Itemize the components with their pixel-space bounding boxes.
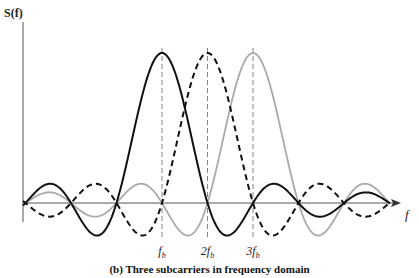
tick-label-fb: fb xyxy=(158,244,165,260)
chart-canvas xyxy=(0,0,419,278)
tick-label-3fb: 3fb xyxy=(246,244,259,260)
tick-label-2fb: 2fb xyxy=(201,244,214,260)
figure-caption: (b) Three subcarriers in frequency domai… xyxy=(0,263,419,275)
x-axis-label: f xyxy=(405,207,409,223)
curves xyxy=(23,53,390,236)
y-axis-label: S(f) xyxy=(4,6,23,21)
subcarrier-curve-3 xyxy=(23,53,390,236)
